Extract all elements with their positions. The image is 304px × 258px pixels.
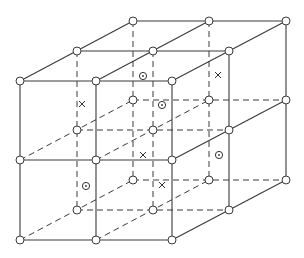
lattice-node-back bbox=[205, 176, 213, 184]
lattice-node-middle bbox=[225, 206, 233, 214]
lattice-node-back bbox=[129, 17, 137, 25]
lattice-node-front bbox=[168, 156, 176, 164]
lattice-node-middle bbox=[73, 206, 81, 214]
lattice-node-middle bbox=[225, 47, 233, 55]
cross-mark-icon bbox=[79, 101, 85, 107]
lattice-node-front bbox=[168, 236, 176, 244]
circle-dot-mark-icon bbox=[215, 151, 222, 158]
lattice-node-middle bbox=[73, 47, 81, 55]
lattice-node-front bbox=[92, 156, 100, 164]
lattice-node-middle bbox=[73, 126, 81, 134]
cross-mark-icon bbox=[159, 182, 165, 188]
lattice-node-front bbox=[92, 77, 100, 85]
lattice-node-back bbox=[282, 176, 290, 184]
cross-mark-icon bbox=[140, 152, 146, 158]
lattice-node-back bbox=[282, 17, 290, 25]
circle-dot-mark-icon bbox=[158, 101, 165, 108]
lattice-node-front bbox=[92, 236, 100, 244]
lattice-svg bbox=[0, 0, 304, 258]
lattice-node-back bbox=[205, 17, 213, 25]
cross-mark-icon bbox=[215, 72, 221, 78]
lattice-node-front bbox=[168, 77, 176, 85]
lattice-node-front bbox=[16, 77, 24, 85]
lattice-node-middle bbox=[225, 126, 233, 134]
circle-dot-mark-icon bbox=[139, 72, 146, 79]
lattice-node-back bbox=[129, 96, 137, 104]
circle-dot-mark-icon bbox=[82, 182, 89, 189]
lattice-nodes bbox=[16, 17, 290, 244]
lattice-node-front bbox=[16, 156, 24, 164]
lattice-node-back bbox=[282, 96, 290, 104]
lattice-diagram bbox=[0, 0, 304, 258]
lattice-node-middle bbox=[149, 126, 157, 134]
lattice-node-back bbox=[205, 96, 213, 104]
lattice-node-front bbox=[16, 236, 24, 244]
lattice-node-middle bbox=[149, 47, 157, 55]
lattice-node-back bbox=[129, 176, 137, 184]
lattice-node-middle bbox=[149, 206, 157, 214]
